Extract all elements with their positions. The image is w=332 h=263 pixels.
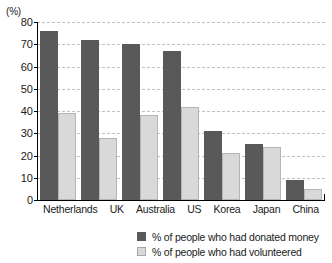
bar-korea-series2 [222, 153, 240, 200]
bar-uk-series2 [99, 138, 117, 200]
legend-item-1: % of people who had donated money [137, 229, 319, 244]
x-label-uk: UK [110, 203, 124, 215]
legend-label-1: % of people who had donated money [152, 231, 319, 243]
legend-swatch-1 [137, 232, 146, 241]
y-tick-label-30: 30 [21, 127, 33, 139]
legend-swatch-2 [137, 247, 146, 256]
y-tick-40 [34, 111, 38, 112]
bar-group-china [286, 22, 322, 200]
bar-groups [37, 22, 325, 200]
y-tick-label-50: 50 [21, 83, 33, 95]
x-label-china: China [292, 203, 318, 215]
bar-australia-series1 [122, 44, 140, 200]
x-axis [37, 200, 325, 201]
bar-japan-series2 [263, 147, 281, 200]
y-tick-70 [34, 44, 38, 45]
bar-group-japan [245, 22, 281, 200]
bar-japan-series1 [245, 144, 263, 200]
bar-group-netherlands [40, 22, 76, 200]
bar-us-series1 [163, 51, 181, 200]
y-tick-10 [34, 178, 38, 179]
bar-chart: (%) 01020304050607080 NetherlandsUKAustr… [0, 0, 332, 263]
y-tick-20 [34, 156, 38, 157]
legend-item-2: % of people who had volunteered [137, 244, 319, 259]
bar-australia-series2 [140, 115, 158, 200]
y-tick-80 [34, 22, 38, 23]
bar-netherlands-series1 [40, 31, 58, 200]
y-tick-label-40: 40 [21, 105, 33, 117]
y-tick-label-60: 60 [21, 61, 33, 73]
bar-netherlands-series2 [58, 113, 76, 200]
y-tick-label-10: 10 [21, 172, 33, 184]
x-axis-labels: NetherlandsUKAustraliaUSKoreaJapanChina [37, 203, 325, 215]
legend: % of people who had donated money% of pe… [137, 229, 319, 259]
plot-area [37, 22, 325, 200]
y-tick-label-80: 80 [21, 16, 33, 28]
y-axis-unit-label: (%) [6, 6, 21, 17]
x-label-japan: Japan [253, 203, 281, 215]
bar-group-korea [204, 22, 240, 200]
x-label-netherlands: Netherlands [43, 203, 97, 215]
bar-uk-series1 [81, 40, 99, 200]
x-label-australia: Australia [136, 203, 175, 215]
y-axis: 01020304050607080 [37, 22, 38, 200]
bar-china-series2 [304, 189, 322, 200]
bar-group-us [163, 22, 199, 200]
y-tick-50 [34, 89, 38, 90]
bar-group-australia [122, 22, 158, 200]
y-tick-60 [34, 67, 38, 68]
x-label-us: US [187, 203, 201, 215]
bar-china-series1 [286, 180, 304, 200]
x-axis-end-cap [324, 194, 325, 200]
bar-korea-series1 [204, 131, 222, 200]
y-tick-30 [34, 133, 38, 134]
bar-us-series2 [181, 107, 199, 200]
x-label-korea: Korea [213, 203, 240, 215]
legend-label-2: % of people who had volunteered [152, 246, 302, 258]
y-tick-label-20: 20 [21, 150, 33, 162]
y-tick-label-0: 0 [27, 194, 33, 206]
y-tick-label-70: 70 [21, 38, 33, 50]
bar-group-uk [81, 22, 117, 200]
